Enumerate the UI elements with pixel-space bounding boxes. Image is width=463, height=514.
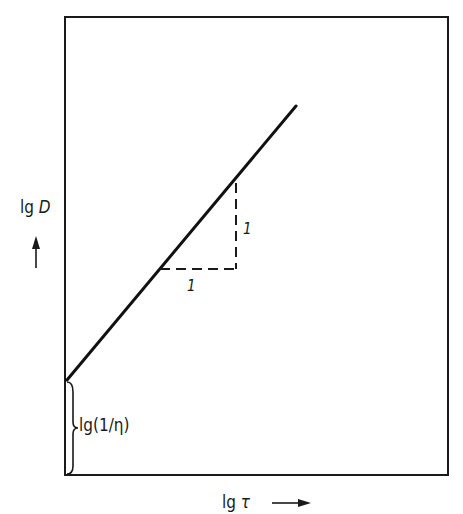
y-axis-label-prefix: lg — [20, 197, 39, 217]
plot-frame — [65, 17, 448, 475]
chart-canvas — [0, 0, 463, 514]
intercept-label: lg(1/η) — [79, 417, 129, 434]
x-axis-label: lg τ — [222, 494, 250, 511]
y-axis-label: lg D — [20, 199, 51, 216]
slope-run-label: 1 — [187, 279, 196, 294]
data-line — [67, 106, 296, 380]
slope-rise-label: 1 — [243, 222, 252, 237]
x-axis-label-variable: τ — [241, 492, 250, 512]
y-axis-arrow-icon — [32, 236, 40, 268]
y-axis-label-variable: D — [39, 197, 51, 217]
x-axis-label-prefix: lg — [222, 492, 241, 512]
intercept-brace — [67, 382, 78, 474]
x-axis-arrow-icon — [272, 499, 311, 507]
